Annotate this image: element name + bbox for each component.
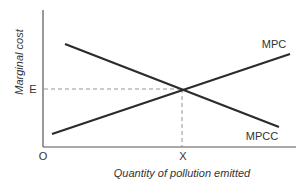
e-tick-label: E <box>29 83 36 95</box>
y-axis-label: Marginal cost <box>13 28 25 94</box>
mpcc-line <box>65 44 279 127</box>
x-axis-label: Quantity of pollution emitted <box>114 167 251 179</box>
mpc-line <box>52 54 290 134</box>
mpcc-label: MPCC <box>246 130 278 142</box>
mpc-label: MPC <box>262 38 287 50</box>
pollution-cost-diagram: Marginal cost E O X Quantity of pollutio… <box>0 0 306 185</box>
origin-label: O <box>39 150 48 162</box>
x-tick-label: X <box>179 150 187 162</box>
